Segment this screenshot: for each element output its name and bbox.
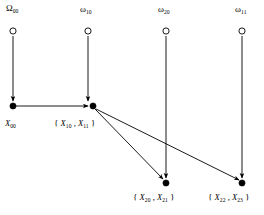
source-node-omega-10 bbox=[85, 28, 91, 34]
source-node-omega-11 bbox=[239, 28, 245, 34]
state-label-x-1011: { X10 , X11 } bbox=[54, 119, 95, 129]
omega-00-symbol: Ω bbox=[6, 3, 13, 13]
state-node-x-2021 bbox=[163, 180, 169, 186]
state-label-x-00: X00 bbox=[5, 119, 16, 129]
omega-11-subscript: 11 bbox=[241, 9, 247, 15]
state-node-x-2223 bbox=[239, 180, 245, 186]
x-1011-open-brace: { bbox=[54, 118, 61, 128]
edge-x1011-to-x2021 bbox=[95, 109, 163, 179]
state-node-x-00 bbox=[10, 103, 16, 109]
omega-20-subscript: 20 bbox=[164, 9, 170, 15]
diagram-graphics bbox=[0, 0, 264, 215]
state-node-x-1011 bbox=[90, 103, 96, 109]
source-node-omega-00 bbox=[10, 28, 16, 34]
x-1011-close-brace: } bbox=[89, 118, 96, 128]
state-label-x-2021: { X20 , X21 } bbox=[133, 193, 175, 203]
omega-00-subscript: 00 bbox=[13, 8, 19, 14]
source-label-omega-20: ω20 bbox=[158, 5, 170, 15]
x-2021-open-brace: { bbox=[133, 192, 140, 202]
source-node-omega-20 bbox=[163, 28, 169, 34]
x-00-subscript: 00 bbox=[10, 123, 16, 129]
figure-canvas: Ω00 ω10 ω20 ω11 X00 { X10 , X11 } { X20 … bbox=[0, 0, 264, 215]
edge-x1011-to-x2223 bbox=[96, 109, 239, 180]
x-2223-open-brace: { bbox=[208, 192, 215, 202]
source-label-omega-00: Ω00 bbox=[6, 4, 19, 14]
state-label-x-2223: { X22 , X23 } bbox=[208, 193, 250, 203]
source-label-omega-10: ω10 bbox=[80, 5, 92, 15]
x-2223-close-brace: } bbox=[243, 192, 250, 202]
x-2021-close-brace: } bbox=[168, 192, 175, 202]
omega-10-subscript: 10 bbox=[86, 9, 92, 15]
source-label-omega-11: ω11 bbox=[235, 5, 247, 15]
